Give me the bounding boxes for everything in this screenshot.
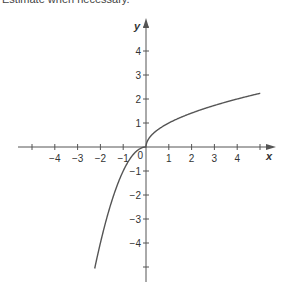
x-tick-label: 1 [166, 153, 172, 164]
x-tick-label: 3 [212, 153, 218, 164]
y-tick-label: −3 [130, 214, 142, 225]
y-tick-label: −2 [130, 190, 142, 201]
origin-label: 0 [137, 150, 143, 161]
y-tick-label: 1 [135, 118, 141, 129]
y-tick-label: 2 [135, 94, 141, 105]
x-tick-label: −4 [49, 153, 61, 164]
x-tick-label: −3 [72, 153, 84, 164]
y-tick-label: −4 [130, 238, 142, 249]
y-tick-label: 4 [135, 46, 141, 57]
x-tick-label: 2 [189, 153, 195, 164]
x-tick-label: 4 [234, 153, 240, 164]
y-axis-label: y [133, 20, 141, 32]
function-graph: −4−3−2−11234−4−3−2−112340 x y [0, 0, 291, 291]
y-tick-label: 3 [135, 70, 141, 81]
x-axis-label: x [265, 150, 273, 162]
y-tick-label: −1 [130, 166, 142, 177]
function-curve [95, 93, 261, 268]
x-tick-label: −2 [95, 153, 107, 164]
